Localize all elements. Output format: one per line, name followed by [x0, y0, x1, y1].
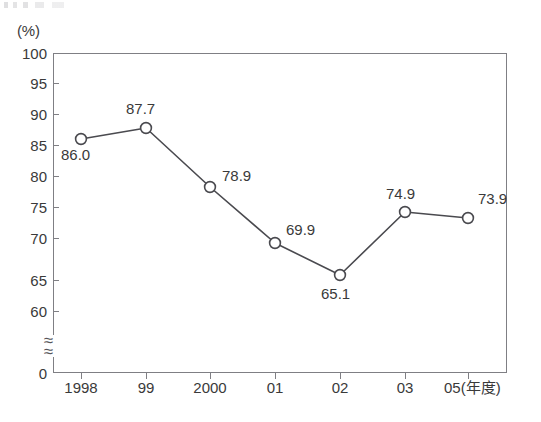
data-point-marker [141, 123, 152, 134]
line-series [0, 0, 541, 422]
data-label-2000: 78.9 [222, 168, 251, 184]
data-point-marker [463, 213, 474, 224]
data-point-marker [400, 207, 411, 218]
data-label-05: 73.9 [478, 191, 507, 207]
data-label-1998: 86.0 [61, 147, 90, 163]
data-label-03: 74.9 [386, 186, 415, 202]
data-label-02: 65.1 [321, 286, 350, 302]
data-point-marker [76, 134, 87, 145]
data-point-marker [270, 238, 281, 249]
data-label-99: 87.7 [126, 101, 155, 117]
data-point-marker [335, 270, 346, 281]
chart-figure: (%) 100 95 90 85 80 75 70 65 60 0 ≈ ≈ 19… [0, 0, 541, 422]
data-point-marker [205, 182, 216, 193]
data-label-01: 69.9 [286, 222, 315, 238]
